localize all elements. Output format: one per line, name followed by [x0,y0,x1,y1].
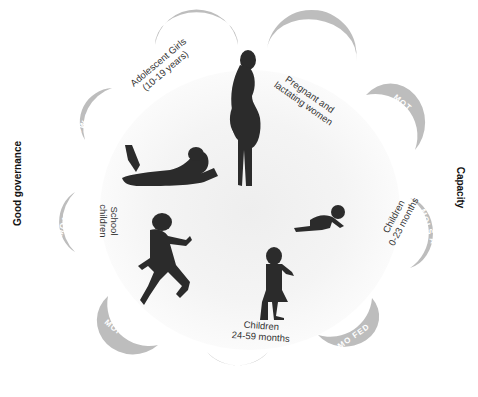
school-child-silhouette [138,213,192,305]
crescent-label-moe: MO E [295,23,321,37]
group-label-school: School children [98,204,120,237]
crescent-mowe [207,352,268,365]
group-label-children-24-59: Children 24-59 months [231,318,290,344]
adolescent-girl-silhouette [122,145,218,186]
crescent-label-mowe: MO WE [219,365,253,381]
toddler-silhouette [260,247,294,320]
multisectoral-nutrition-diagram: MOH MO E MOT MOLS A MO FED MO WE MOI MOA… [0,0,478,397]
crescent-label-moh: MOH [183,22,206,35]
side-label-good-governance: Good governance [12,141,23,226]
pregnant-woman-silhouette [230,50,261,186]
crawling-baby-silhouette [294,205,345,232]
side-label-capacity: Capacity [455,167,466,209]
crescent-label-moa: MOA [55,214,70,237]
crescent-label-mols: MOLS A [418,208,438,246]
